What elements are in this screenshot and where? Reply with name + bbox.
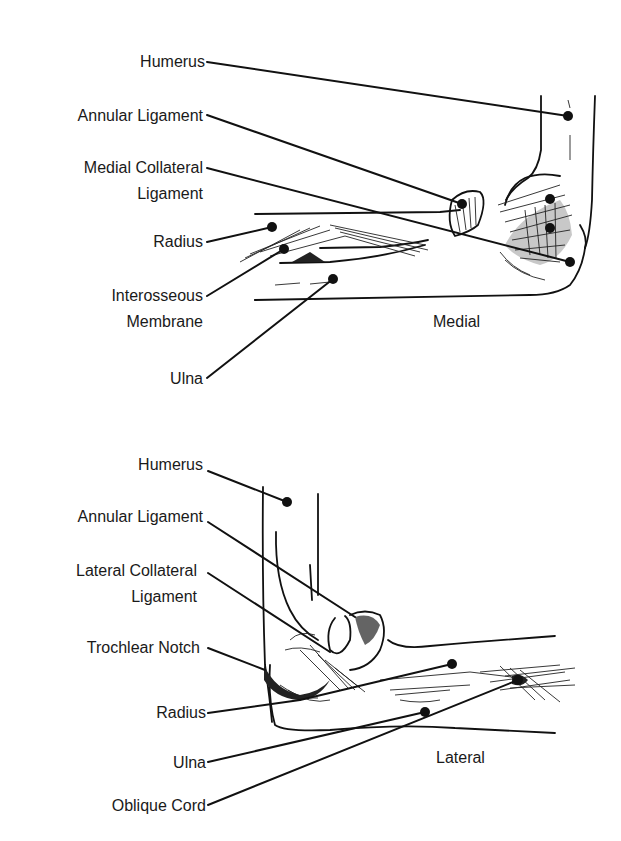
leader-medial-collateral bbox=[207, 168, 570, 262]
label-medial-radius: Radius bbox=[153, 232, 203, 251]
leader-lateral-oblique bbox=[208, 680, 518, 805]
label-lateral-trochlear-notch: Trochlear Notch bbox=[87, 638, 200, 657]
view-label-medial: Medial bbox=[433, 312, 480, 331]
leader-lateral-radius-a bbox=[208, 700, 300, 713]
leader-lateral-annular bbox=[208, 522, 355, 617]
view-label-lateral: Lateral bbox=[436, 748, 485, 767]
leader-lateral-radius-b bbox=[300, 664, 452, 700]
leader-lateral-humerus bbox=[208, 471, 287, 502]
label-lateral-annular-ligament: Annular Ligament bbox=[78, 507, 203, 526]
leader-medial-ulna bbox=[207, 279, 333, 378]
label-medial-annular-ligament: Annular Ligament bbox=[78, 106, 203, 125]
leader-lateral-ulna bbox=[208, 712, 425, 762]
label-lateral-radius: Radius bbox=[156, 703, 206, 722]
medial-elbow-drawing bbox=[240, 96, 595, 300]
elbow-ligament-diagram: Humerus Annular Ligament Medial Collater… bbox=[0, 0, 621, 841]
label-medial-interosseous-membrane: Interosseous Membrane bbox=[111, 286, 203, 331]
leader-medial-annular bbox=[207, 115, 462, 204]
leader-medial-radius bbox=[207, 227, 272, 242]
leader-medial-humerus bbox=[207, 62, 568, 116]
label-lateral-humerus: Humerus bbox=[138, 455, 203, 474]
label-lateral-collateral-ligament: Lateral Collateral Ligament bbox=[76, 561, 197, 606]
label-lateral-ulna: Ulna bbox=[173, 753, 206, 772]
label-medial-collateral-ligament: Medial Collateral Ligament bbox=[84, 158, 203, 203]
label-lateral-oblique-cord: Oblique Cord bbox=[112, 796, 206, 815]
leader-medial-interosseous bbox=[207, 249, 284, 296]
leader-lateral-trochlear bbox=[208, 648, 265, 670]
lateral-elbow-drawing bbox=[263, 487, 575, 733]
illustration bbox=[0, 0, 621, 841]
label-medial-humerus: Humerus bbox=[140, 52, 205, 71]
label-medial-ulna: Ulna bbox=[170, 369, 203, 388]
